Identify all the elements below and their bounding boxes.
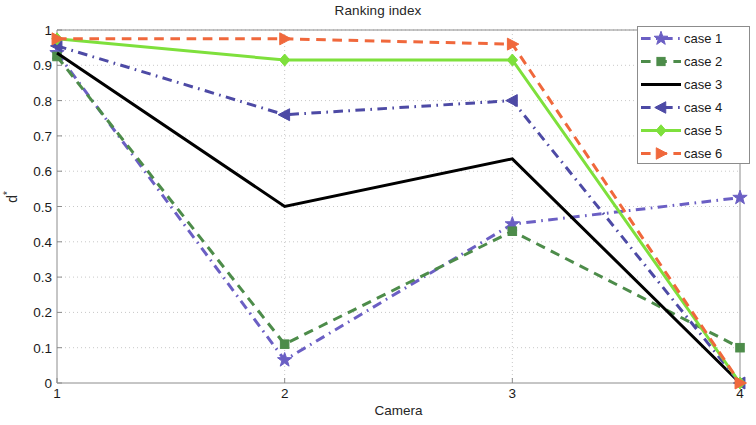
legend-label: case 2: [684, 55, 722, 68]
legend-item-case-3[interactable]: case 3: [638, 73, 749, 96]
chart-figure: Ranking index 00.10.20.30.40.50.60.70.80…: [0, 0, 756, 425]
legend-label: case 5: [684, 124, 722, 137]
legend-item-case-2[interactable]: case 2: [638, 50, 749, 73]
legend-item-case-4[interactable]: case 4: [638, 96, 749, 119]
legend-label: case 4: [684, 101, 722, 114]
legend-item-case-1[interactable]: case 1: [638, 27, 749, 50]
legend-sample-case-1: [638, 27, 684, 50]
legend-sample-case-3: [638, 73, 684, 96]
legend-sample-case-6: [638, 142, 684, 165]
legend-label: case 1: [684, 32, 722, 45]
legend-sample-case-4: [638, 96, 684, 119]
legend-label: case 3: [684, 78, 722, 91]
legend-sample-case-2: [638, 50, 684, 73]
legend-box: case 1case 2case 3case 4case 5case 6: [637, 26, 750, 164]
legend-item-case-5[interactable]: case 5: [638, 119, 749, 142]
legend-sample-case-5: [638, 119, 684, 142]
legend-label: case 6: [684, 147, 722, 160]
legend-item-case-6[interactable]: case 6: [638, 142, 749, 165]
